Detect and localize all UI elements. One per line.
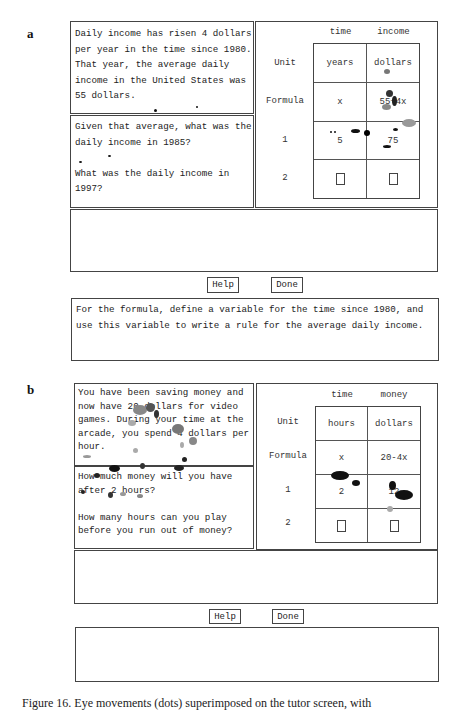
row-label-2: 2 — [257, 518, 319, 528]
row-label-1: 1 — [256, 135, 314, 145]
worksheet-box: time money Unit Formula 1 2 hours dollar… — [256, 383, 438, 550]
workspace-box[interactable] — [70, 209, 438, 272]
questions-box: How much money will you have after 2 hou… — [74, 466, 254, 549]
cell-time-row2[interactable] — [316, 509, 367, 542]
cell-time-formula[interactable]: x — [314, 83, 366, 121]
empty-entry-icon — [390, 520, 399, 532]
column-header-time: time — [314, 27, 367, 37]
questions-box: Given that average, what was the daily i… — [70, 115, 254, 208]
cell-time-unit[interactable]: years — [314, 44, 366, 82]
questions-text: Given that average, what was the daily i… — [71, 116, 253, 197]
help-button[interactable]: Help — [209, 609, 241, 624]
cell-money-formula[interactable]: 20-4x — [368, 441, 420, 474]
figure-caption: Figure 16. Eye movements (dots) superimp… — [22, 696, 371, 711]
help-button[interactable]: Help — [207, 277, 239, 293]
cell-income-unit[interactable]: dollars — [367, 44, 419, 82]
row-label-unit: Unit — [257, 417, 319, 427]
problem-statement-box: Daily income has risen 4 dollars per yea… — [70, 21, 254, 114]
hint-text: For the formula, define a variable for t… — [72, 299, 438, 333]
cell-money-row1[interactable]: 12 — [368, 475, 420, 508]
hint-message-box: For the formula, define a variable for t… — [71, 298, 439, 361]
cell-time-unit[interactable]: hours — [316, 407, 367, 440]
done-button[interactable]: Done — [272, 609, 304, 624]
panel-label-a: a — [27, 26, 34, 42]
column-header-time: time — [316, 390, 368, 400]
cell-time-row1[interactable]: 2 — [316, 475, 367, 508]
empty-entry-icon — [336, 173, 345, 185]
problem-text: Daily income has risen 4 dollars per yea… — [71, 22, 253, 104]
cell-time-row2[interactable] — [314, 160, 366, 198]
empty-entry-icon — [389, 173, 398, 185]
problem-text: You have been saving money and now have … — [75, 384, 253, 454]
done-button[interactable]: Done — [271, 277, 303, 293]
worksheet-box: time income Unit Formula 1 2 years dolla… — [255, 21, 438, 208]
questions-text: How much money will you have after 2 hou… — [75, 467, 253, 538]
row-label-2: 2 — [256, 173, 314, 183]
cell-money-row2[interactable] — [368, 509, 420, 542]
cell-income-row2[interactable] — [367, 160, 419, 198]
row-label-formula: Formula — [256, 96, 314, 106]
cell-time-row1[interactable]: 5 — [314, 122, 366, 159]
panel-label-b: b — [27, 382, 34, 398]
empty-entry-icon — [337, 520, 346, 532]
row-label-1: 1 — [257, 485, 319, 495]
row-label-unit: Unit — [256, 58, 314, 68]
column-header-income: income — [367, 27, 420, 37]
problem-statement-box: You have been saving money and now have … — [74, 383, 254, 466]
column-header-money: money — [368, 390, 420, 400]
row-label-formula: Formula — [257, 451, 319, 461]
cell-time-formula[interactable]: x — [316, 441, 367, 474]
hint-message-box — [75, 627, 439, 682]
workspace-box[interactable] — [74, 550, 438, 604]
cell-money-unit[interactable]: dollars — [368, 407, 420, 440]
